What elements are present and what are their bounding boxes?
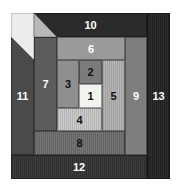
patch-3: 3 (57, 60, 79, 108)
patch-8-label: 8 (76, 137, 82, 149)
patch-5: 5 (102, 60, 125, 131)
patch-1: 1 (79, 84, 102, 108)
patch-3-label: 3 (65, 78, 71, 90)
patch-2: 2 (79, 60, 102, 84)
patch-8: 8 (34, 131, 125, 155)
patch-4: 4 (57, 108, 102, 131)
patch-7: 7 (34, 37, 57, 131)
quilt-block: 13 10 11 12 9 7 8 6 5 3 2 1 4 (11, 13, 170, 179)
patch-1-label: 1 (87, 90, 93, 102)
patch-13-label: 13 (152, 90, 164, 102)
patch-10: 10 (34, 13, 147, 37)
patch-12-label: 12 (73, 161, 85, 173)
patch-6-label: 6 (88, 43, 94, 55)
patch-10-label: 10 (84, 19, 96, 31)
patch-9-label: 9 (133, 90, 139, 102)
patch-2-label: 2 (87, 66, 93, 78)
patch-6: 6 (57, 37, 125, 60)
patch-4-label: 4 (76, 114, 82, 126)
patch-5-label: 5 (110, 90, 116, 102)
patch-11: 11 (11, 13, 34, 155)
patch-7-label: 7 (42, 78, 48, 90)
patch-12: 12 (11, 155, 147, 179)
patch-13: 13 (147, 13, 170, 179)
patch-11-label: 11 (17, 90, 29, 102)
patch-9: 9 (125, 37, 147, 155)
